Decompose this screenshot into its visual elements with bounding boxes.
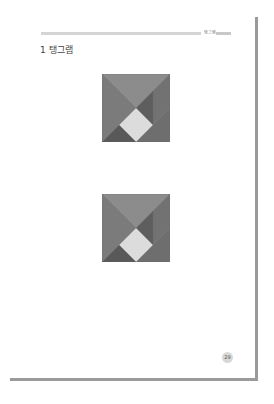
tangram-figure-1 [102,74,170,142]
tangram-icon [102,74,170,142]
page-bottom-border [10,378,258,381]
tangram-figure-2 [102,194,170,262]
page-number-badge: 29 [222,352,233,363]
header-section-label: 탱그램 [204,29,216,37]
header-rule [41,32,201,35]
page-right-border [255,17,258,381]
document-page: 탱그램 1 탱그램 29 [0,0,274,404]
tangram-icon [102,194,170,262]
section-heading: 1 탱그램 [40,43,73,56]
header-tab-marker [216,32,231,35]
